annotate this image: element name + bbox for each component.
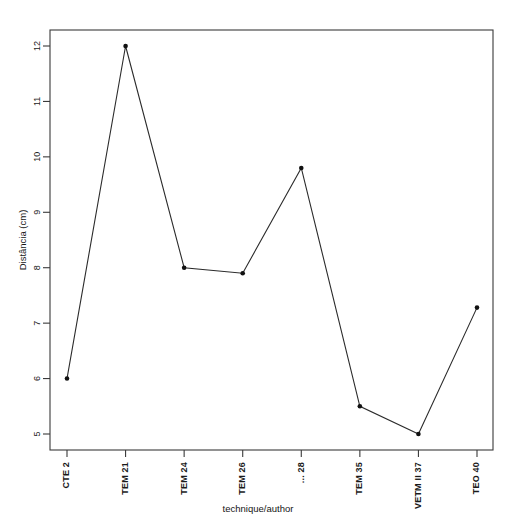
y-tick-label-10: 10 (32, 152, 42, 162)
data-point-1 (123, 44, 128, 49)
data-series-line (67, 46, 477, 434)
x-axis-tick-labels: CTE 2TEM 21TEM 24TEM 26... 28TEM 35VETM … (61, 462, 481, 509)
data-point-7 (475, 305, 480, 310)
y-axis-ticks (43, 46, 50, 434)
x-tick-label-2: TEM 24 (179, 462, 189, 495)
y-tick-label-8: 8 (32, 265, 42, 270)
y-axis-title: Distância (cm) (17, 210, 28, 271)
x-tick-label-3: TEM 26 (237, 462, 247, 495)
y-tick-label-5: 5 (32, 431, 42, 436)
chart-figure: 56789101112 CTE 2TEM 21TEM 24TEM 26... 2… (0, 0, 509, 531)
x-tick-label-5: TEM 35 (354, 462, 364, 495)
y-tick-label-6: 6 (32, 376, 42, 381)
x-axis-ticks (67, 450, 477, 457)
data-point-4 (299, 166, 304, 171)
y-axis-tick-labels: 56789101112 (32, 41, 42, 437)
data-point-2 (182, 265, 187, 270)
x-axis-title: technique/author (223, 503, 294, 514)
x-tick-label-0: CTE 2 (61, 462, 71, 489)
line-chart-canvas: 56789101112 CTE 2TEM 21TEM 24TEM 26... 2… (0, 0, 509, 531)
data-point-0 (65, 376, 70, 381)
y-tick-label-12: 12 (32, 41, 42, 51)
x-tick-label-4: ... 28 (296, 462, 306, 483)
data-point-6 (416, 432, 421, 437)
y-tick-label-11: 11 (32, 97, 42, 106)
y-tick-label-9: 9 (32, 210, 42, 215)
x-tick-label-1: TEM 21 (120, 462, 130, 495)
x-tick-label-6: VETM II 37 (413, 462, 423, 509)
data-series-points (65, 44, 480, 437)
x-tick-label-7: TEO 40 (471, 462, 481, 494)
data-point-5 (358, 404, 363, 409)
y-tick-label-7: 7 (32, 321, 42, 326)
plot-frame-box (50, 30, 493, 450)
data-point-3 (240, 271, 245, 276)
